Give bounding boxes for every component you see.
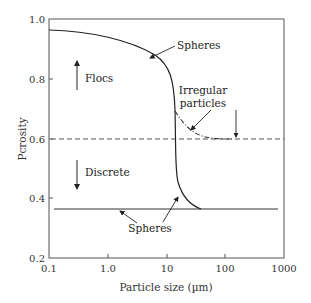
annotation-spheres-top: Spheres — [177, 39, 221, 51]
annotation-discrete: Discrete — [85, 166, 130, 178]
arrow-irregular-curve — [191, 110, 211, 130]
annotation-spheres-bottom: Spheres — [128, 222, 172, 234]
y-tick-0.6: 0.6 — [29, 134, 45, 145]
x-axis-title: Particle size (µm) — [119, 281, 212, 293]
x-tick-1000: 1000 — [271, 263, 296, 274]
arrow-spheres-top — [150, 46, 175, 58]
annotation-irregular-line1: Irregular — [179, 84, 229, 96]
x-tick-100: 100 — [215, 263, 234, 274]
spheres-floc-curve — [49, 30, 201, 209]
y-tick-0.4: 0.4 — [29, 193, 45, 204]
irregular-particles-curve — [175, 111, 232, 139]
annotation-irregular-line2: particles — [180, 97, 226, 109]
y-tick-1.0: 1.0 — [29, 14, 45, 25]
x-tick-0.1: 0.1 — [41, 263, 57, 274]
y-tick-labels: 1.0 0.8 0.6 0.4 0.2 — [29, 14, 45, 264]
annotation-flocs: Flocs — [85, 72, 113, 84]
y-axis-title: Pcrosity — [16, 117, 28, 160]
x-tick-1.0: 1.0 — [100, 263, 116, 274]
x-tick-labels: 0.1 1.0 10 100 1000 — [41, 263, 297, 274]
x-axis — [108, 254, 225, 258]
x-tick-10: 10 — [161, 263, 174, 274]
y-tick-0.8: 0.8 — [29, 74, 45, 85]
porosity-chart: 1.0 0.8 0.6 0.4 0.2 0.1 1.0 10 100 1000 … — [0, 0, 311, 303]
